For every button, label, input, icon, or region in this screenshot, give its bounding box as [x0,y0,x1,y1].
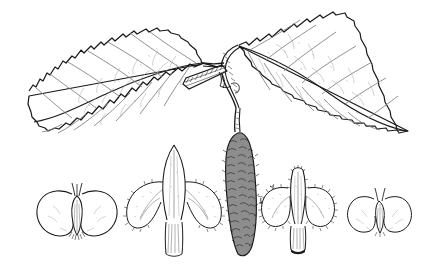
botanical-plate [0,0,425,276]
